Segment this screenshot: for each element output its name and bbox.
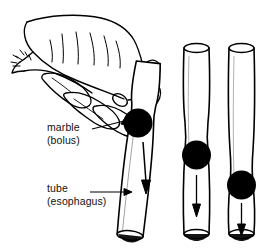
tube-stage-3	[227, 44, 256, 241]
label-marble-line2: (bolus)	[47, 134, 80, 147]
marble-stage-2	[182, 141, 211, 170]
illustration-canvas: marble (bolus) tube (esophagus)	[0, 0, 269, 251]
tube-stage-2	[182, 44, 211, 241]
label-marble-line1: marble	[47, 121, 80, 133]
label-tube-line2: (esophagus)	[47, 195, 106, 208]
peristalsis-line-drawing	[0, 0, 269, 251]
label-tube: tube (esophagus)	[47, 182, 106, 208]
marble-stage-3	[227, 171, 256, 200]
tube-top-opening-2	[184, 44, 209, 53]
label-tube-line1: tube	[47, 182, 68, 194]
tube-top-opening-3	[229, 44, 254, 53]
label-marble: marble (bolus)	[47, 121, 80, 147]
